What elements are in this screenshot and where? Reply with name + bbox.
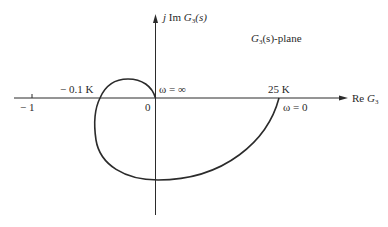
- omega-infinity-label: ω = ∞: [159, 84, 186, 95]
- nyquist-plot: [0, 0, 388, 227]
- plane-suffix: (s)-plane: [262, 32, 301, 44]
- real-axis-label: Re G3: [352, 93, 378, 106]
- imag-axis-arrow-icon: [153, 14, 158, 23]
- imag-im: Im: [166, 11, 184, 23]
- real-re: Re: [352, 92, 367, 104]
- nyquist-curve: [95, 79, 279, 180]
- real-sub: 3: [375, 98, 379, 106]
- minus-one-label: − 1: [20, 102, 34, 113]
- origin-label: 0: [145, 102, 151, 113]
- omega-zero-label: ω = 0: [283, 102, 307, 113]
- imag-axis-label: j Im G3(s): [163, 12, 207, 25]
- imag-g: G: [184, 11, 192, 23]
- real-axis-arrow-icon: [339, 96, 348, 101]
- real-g: G: [367, 92, 375, 104]
- neg-crossing-label: − 0.1 K: [60, 84, 93, 95]
- imag-arg: (s): [195, 11, 207, 23]
- plane-g: G: [251, 32, 259, 44]
- plane-label: G3(s)-plane: [251, 33, 302, 46]
- pos-crossing-label: 25 K: [268, 84, 290, 95]
